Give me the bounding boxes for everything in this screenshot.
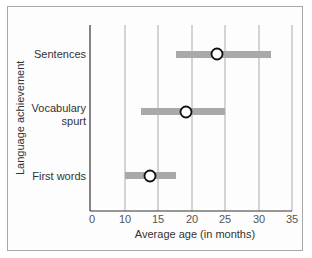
- x-tick-35: 35: [280, 213, 304, 225]
- x-tick-25: 25: [213, 213, 237, 225]
- average-marker-vocabulary: [181, 107, 192, 118]
- range-bar-sentences: [176, 51, 271, 58]
- x-tick-20: 20: [180, 213, 204, 225]
- x-tick-0: 0: [80, 213, 104, 225]
- x-tick-30: 30: [247, 213, 271, 225]
- x-tick-10: 10: [113, 213, 137, 225]
- average-marker-first-words: [145, 171, 156, 182]
- x-axis-label: Average age (in months): [120, 228, 270, 240]
- category-label-sentences: Sentences: [6, 48, 86, 61]
- y-axis-label: Language achievement: [14, 61, 26, 175]
- x-tick-15: 15: [146, 213, 170, 225]
- average-marker-sentences: [212, 49, 223, 60]
